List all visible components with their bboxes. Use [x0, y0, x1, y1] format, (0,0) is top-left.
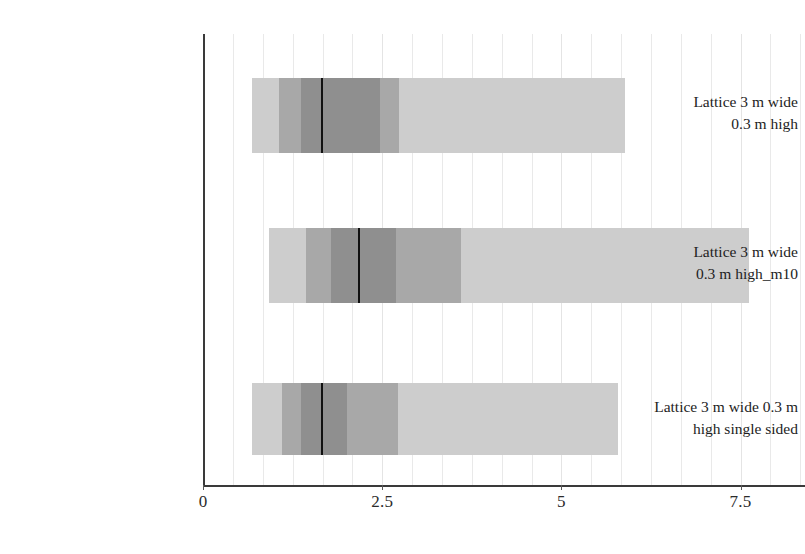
x-tick-label-3: 7.5	[730, 492, 752, 512]
category-label-2: Lattice 3 m wide 0.3 m high single sided	[609, 396, 805, 441]
box-band-inner	[331, 228, 396, 303]
category-label-2-line1: Lattice 3 m wide 0.3 m	[654, 398, 798, 415]
median-line	[321, 78, 323, 153]
category-label-0-line2: 0.3 m high	[609, 113, 798, 135]
x-tick-mark-1	[382, 485, 383, 490]
x-axis-line	[203, 485, 805, 487]
x-tick-mark-0	[203, 485, 204, 490]
x-tick-mark-3	[741, 485, 742, 490]
chart-root: 02.557.5 Lattice 3 m wide 0.3 m high Lat…	[0, 0, 805, 554]
category-label-1-line2: 0.3 m high_m10	[609, 263, 798, 285]
y-axis-line	[203, 34, 205, 486]
median-line	[358, 228, 360, 303]
median-line	[321, 383, 323, 455]
box-band-inner	[301, 78, 380, 153]
category-label-2-line2: high single sided	[609, 418, 798, 440]
box-band-inner	[301, 383, 347, 455]
category-label-0-line1: Lattice 3 m wide	[693, 93, 798, 110]
category-label-1-line1: Lattice 3 m wide	[693, 243, 798, 260]
x-tick-label-0: 0	[199, 492, 208, 512]
x-tick-label-1: 2.5	[371, 492, 393, 512]
x-tick-mark-2	[561, 485, 562, 490]
category-label-1: Lattice 3 m wide 0.3 m high_m10	[609, 241, 805, 286]
category-label-0: Lattice 3 m wide 0.3 m high	[609, 91, 805, 136]
x-tick-label-2: 5	[557, 492, 566, 512]
